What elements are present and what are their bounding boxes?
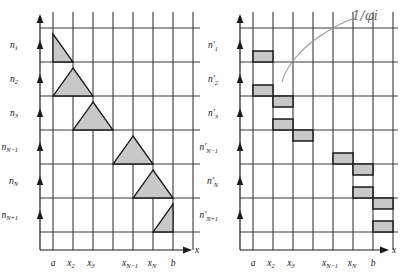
x-tick-label-xN: xN xyxy=(147,258,157,269)
right-panel-x-tick-labels: a x2 x3 xN−1 xN b xyxy=(251,258,376,269)
y-tick-arrow xyxy=(37,108,43,117)
step-N-1 xyxy=(333,153,353,164)
y-tick-label-3-prime: n′3 xyxy=(208,108,218,120)
x-tick-label-xN-1: xN−1 xyxy=(121,258,138,269)
x-tick-label-b: b xyxy=(171,258,176,268)
y-tick-label-N: nN xyxy=(9,176,19,187)
y-tick-label-N-prime: n′N xyxy=(207,176,219,188)
x-tick-label-xN: xN xyxy=(347,258,357,269)
step-Nb xyxy=(373,198,393,209)
step-N+1 xyxy=(373,221,393,232)
figure-svg: n1 n2 n3 nN−1 nN nN+1 xyxy=(0,0,402,274)
x-axis-arrowhead xyxy=(380,247,389,254)
x-axis-label: x xyxy=(391,245,397,255)
y-tick-arrow xyxy=(237,108,243,117)
x-tick-label-x3: x3 xyxy=(86,258,94,269)
y-tick-label-2-prime: n′2 xyxy=(208,74,219,86)
y-tick-arrow xyxy=(37,176,43,185)
y-tick-label-1: n1 xyxy=(10,40,18,51)
left-panel-x-axis: x xyxy=(40,245,200,255)
hat-N-shape xyxy=(133,170,173,198)
step-N xyxy=(353,187,373,198)
left-panel-y-tick-labels: n1 n2 n3 nN−1 nN nN+1 xyxy=(1,40,18,221)
y-tick-arrow xyxy=(37,142,43,151)
right-panel: 1/φi xyxy=(199,8,398,269)
step-2b xyxy=(273,96,293,107)
y-tick-arrow xyxy=(237,40,243,49)
x-tick-label-x3: x3 xyxy=(286,258,294,269)
step-3b xyxy=(293,130,313,141)
right-panel-vertical-gridlines xyxy=(253,12,393,250)
y-tick-arrow xyxy=(237,142,243,151)
hat-3-shape xyxy=(73,102,113,130)
y-tick-label-2: n2 xyxy=(10,74,19,85)
x-tick-label-x2: x2 xyxy=(266,258,275,269)
x-tick-label-a: a xyxy=(251,258,256,268)
y-tick-arrow xyxy=(37,210,43,219)
x-tick-label-x2: x2 xyxy=(66,258,75,269)
step-N-1b xyxy=(353,164,373,175)
y-tick-arrow xyxy=(237,176,243,185)
y-tick-label-N-1-prime: n′N−1 xyxy=(199,142,218,154)
right-panel-y-tick-labels: n′1 n′2 n′3 n′N−1 n′N n′N+1 xyxy=(199,40,218,222)
step-3 xyxy=(273,119,293,130)
hat-1-shape xyxy=(53,34,73,62)
x-axis-arrowhead xyxy=(183,247,192,254)
handwritten-annotation: 1/φi xyxy=(352,8,378,23)
figure-root: n1 n2 n3 nN−1 nN nN+1 xyxy=(0,0,402,274)
y-tick-label-3: n3 xyxy=(10,108,18,119)
right-panel-shapes xyxy=(253,51,393,232)
y-tick-label-N-1: nN−1 xyxy=(1,142,18,153)
x-tick-label-xN-1: xN−1 xyxy=(321,258,338,269)
y-tick-arrow xyxy=(37,40,43,49)
y-axis-arrowhead xyxy=(37,14,44,23)
y-tick-label-1-prime: n′1 xyxy=(208,40,218,52)
y-tick-arrow xyxy=(37,74,43,83)
y-tick-label-N+1-prime: n′N+1 xyxy=(199,210,218,222)
y-tick-arrow xyxy=(237,210,243,219)
x-axis-label: x xyxy=(194,245,200,255)
left-panel: n1 n2 n3 nN−1 nN nN+1 xyxy=(1,0,200,269)
hat-N-1-shape xyxy=(113,136,153,164)
step-2 xyxy=(253,85,273,96)
x-tick-label-a: a xyxy=(51,258,56,268)
hat-2-shape xyxy=(53,68,93,96)
left-panel-x-tick-labels: a x2 x3 xN−1 xN b xyxy=(51,258,176,269)
hat-N+1-shape xyxy=(153,204,173,232)
step-1 xyxy=(253,51,273,62)
y-tick-label-N+1: nN+1 xyxy=(1,210,18,221)
y-tick-arrow xyxy=(237,74,243,83)
x-tick-label-b: b xyxy=(371,258,376,268)
y-axis-arrowhead xyxy=(237,14,244,23)
